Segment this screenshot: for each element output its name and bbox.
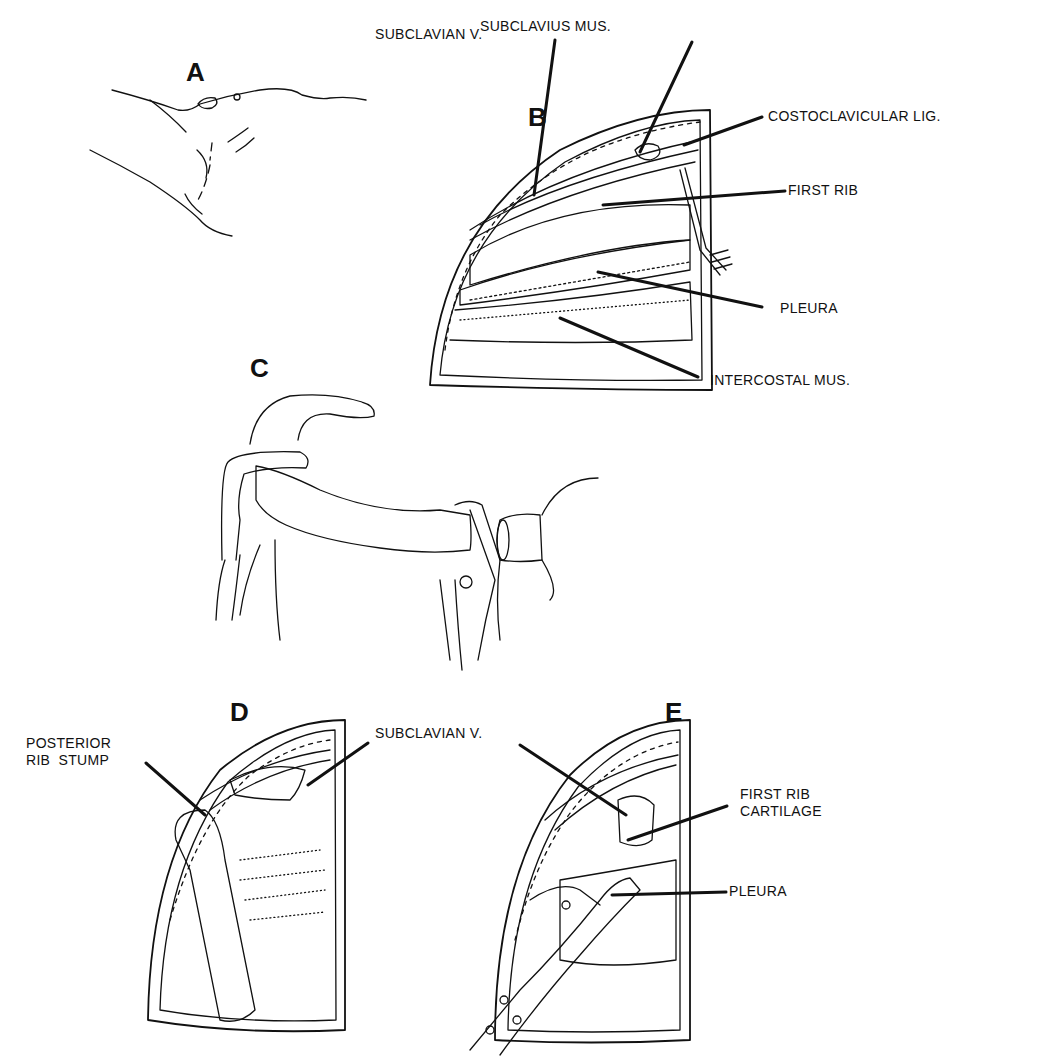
panel-d-drawing: [148, 720, 345, 1031]
label-subclavian-vein-b: SUBCLAVIAN V.: [375, 26, 482, 43]
panel-b-drawing: [430, 110, 732, 390]
label-intercostal-muscle: INTERCOSTAL MUS.: [710, 372, 850, 389]
panel-label-e: E: [665, 697, 682, 728]
label-pleura-b: PLEURA: [780, 300, 838, 317]
panel-label-c: C: [250, 353, 269, 384]
panel-label-a: A: [186, 57, 205, 88]
panel-e-drawing: [470, 720, 690, 1055]
label-first-rib-cartilage: FIRST RIB CARTILAGE: [740, 786, 822, 820]
label-subclavian-vein-d: SUBCLAVIAN V.: [375, 725, 482, 742]
label-posterior-rib-stump: POSTERIOR RIB STUMP: [26, 735, 111, 769]
surgical-illustration: [0, 0, 1038, 1059]
label-pleura-e: PLEURA: [729, 883, 787, 900]
panel-e-leaders: [520, 745, 727, 895]
label-first-rib: FIRST RIB: [788, 182, 858, 199]
panel-label-d: D: [230, 697, 249, 728]
panel-c-drawing: [216, 395, 598, 670]
label-subclavius-muscle: SUBCLAVIUS MUS.: [480, 18, 611, 35]
panel-label-b: B: [528, 102, 547, 133]
panel-b-leaders: [534, 40, 785, 377]
label-costoclavicular-ligament: COSTOCLAVICULAR LIG.: [768, 108, 941, 125]
panel-a-drawing: [90, 89, 366, 236]
